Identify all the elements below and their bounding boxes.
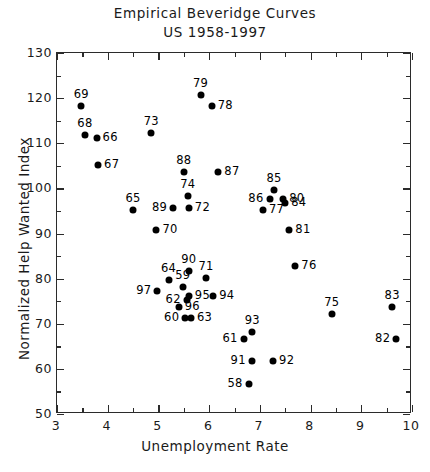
beveridge-curve-figure: Empirical Beveridge Curves US 1958-1997 …: [0, 0, 430, 472]
data-point-label-83: 83: [385, 289, 400, 301]
y-tick-minor: [57, 256, 61, 257]
data-point-label-93: 93: [245, 314, 260, 326]
data-point-67: [95, 161, 102, 168]
data-point-label-84: 84: [291, 197, 306, 209]
data-point-label-66: 66: [103, 132, 118, 144]
x-tick-major: [108, 405, 109, 412]
y-tick-right: [403, 53, 410, 54]
x-tick-major: [209, 405, 210, 412]
y-tick-right: [403, 188, 410, 189]
data-point-label-85: 85: [266, 172, 281, 184]
y-tick-minor: [57, 166, 61, 167]
x-axis-title: Unemployment Rate: [0, 438, 430, 454]
x-tick-major: [158, 405, 159, 412]
data-point-label-79: 79: [193, 77, 208, 89]
data-point-label-97: 97: [136, 285, 151, 297]
x-tick-top: [82, 53, 83, 57]
y-tick-right: [406, 211, 410, 212]
x-tick-major: [260, 405, 261, 412]
y-tick-label: 130: [22, 45, 52, 60]
data-point-66: [93, 134, 100, 141]
y-tick-label: 120: [22, 90, 52, 105]
x-tick-label: 10: [403, 418, 420, 433]
data-point-96: [175, 303, 182, 310]
data-point-61: [240, 335, 247, 342]
data-point-91: [248, 358, 255, 365]
data-point-label-82: 82: [375, 333, 390, 345]
data-point-label-77: 77: [269, 204, 284, 216]
data-point-label-94: 94: [219, 290, 234, 302]
x-tick-minor: [235, 408, 236, 412]
data-point-64: [165, 276, 172, 283]
x-tick-minor: [133, 408, 134, 412]
data-point-83: [389, 303, 396, 310]
data-point-76: [292, 263, 299, 270]
x-tick-top: [311, 53, 312, 60]
y-tick-right: [403, 324, 410, 325]
data-point-label-90: 90: [181, 253, 196, 265]
data-point-97: [154, 288, 161, 295]
y-tick-label: 110: [22, 135, 52, 150]
y-tick-label: 50: [22, 406, 52, 421]
data-point-label-73: 73: [144, 116, 159, 128]
data-point-label-60: 60: [164, 312, 179, 324]
data-point-label-61: 61: [222, 333, 237, 345]
data-point-label-76: 76: [301, 261, 316, 273]
data-point-label-92: 92: [279, 355, 294, 367]
data-point-84: [282, 200, 289, 207]
y-tick-right: [406, 256, 410, 257]
y-tick-right: [403, 143, 410, 144]
y-tick-major: [57, 414, 64, 415]
data-point-73: [148, 130, 155, 137]
y-tick-minor: [57, 346, 61, 347]
y-tick-label: 70: [22, 315, 52, 330]
data-point-label-88: 88: [176, 154, 191, 166]
x-tick-minor: [387, 408, 388, 412]
data-point-90: [185, 267, 192, 274]
chart-title-line-1: Empirical Beveridge Curves: [0, 4, 430, 23]
data-point-label-67: 67: [104, 159, 119, 171]
data-point-label-81: 81: [295, 224, 310, 236]
y-tick-right: [406, 166, 410, 167]
data-point-94: [210, 292, 217, 299]
data-point-92: [270, 358, 277, 365]
data-point-87: [215, 168, 222, 175]
data-point-59: [179, 283, 186, 290]
data-point-label-72: 72: [195, 202, 210, 214]
data-point-label-87: 87: [224, 166, 239, 178]
x-tick-top: [412, 53, 413, 60]
y-tick-major: [57, 53, 64, 54]
x-tick-top: [235, 53, 236, 57]
chart-title-line-2: US 1958-1997: [0, 23, 430, 42]
x-tick-minor: [184, 408, 185, 412]
y-tick-minor: [57, 211, 61, 212]
x-tick-label: 5: [153, 418, 161, 433]
y-tick-right: [406, 121, 410, 122]
y-tick-major: [57, 98, 64, 99]
x-tick-top: [133, 53, 134, 57]
y-tick-minor: [57, 121, 61, 122]
data-point-label-86: 86: [248, 193, 263, 205]
x-tick-label: 7: [255, 418, 263, 433]
y-tick-label: 60: [22, 360, 52, 375]
data-point-label-69: 69: [74, 89, 89, 101]
y-tick-major: [57, 234, 64, 235]
data-point-label-91: 91: [231, 355, 246, 367]
x-tick-top: [209, 53, 210, 60]
y-tick-right: [403, 234, 410, 235]
data-point-65: [130, 206, 137, 213]
x-tick-label: 8: [305, 418, 313, 433]
data-point-85: [271, 186, 278, 193]
data-point-label-71: 71: [198, 260, 213, 272]
x-tick-top: [260, 53, 261, 60]
data-point-82: [393, 335, 400, 342]
data-point-label-68: 68: [77, 118, 92, 130]
data-point-74: [184, 193, 191, 200]
x-tick-top: [158, 53, 159, 60]
data-point-72: [185, 204, 192, 211]
x-tick-major: [311, 405, 312, 412]
x-tick-major: [412, 405, 413, 412]
y-tick-right: [406, 301, 410, 302]
data-point-label-89: 89: [152, 202, 167, 214]
x-tick-major: [57, 405, 58, 412]
